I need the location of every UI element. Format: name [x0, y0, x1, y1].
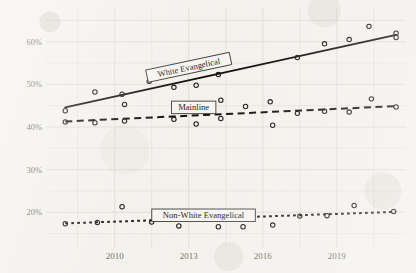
annotation-non-white-evangelical: Non-White Evangelical	[152, 209, 256, 222]
data-point	[177, 224, 181, 228]
x-axis-tick-label: 2019	[328, 251, 347, 261]
data-point	[172, 117, 176, 121]
data-point	[367, 24, 371, 28]
data-point	[270, 223, 274, 227]
series-white-evangelical	[63, 24, 398, 113]
x-axis-tick-label: 2013	[180, 251, 199, 261]
x-axis-tick-labels: 2010201320162019	[106, 251, 347, 261]
data-point	[63, 109, 67, 113]
data-point	[194, 83, 198, 87]
data-point	[93, 121, 97, 125]
data-point	[194, 122, 198, 126]
y-axis-tick-labels: 20%30%40%50%60%	[26, 37, 42, 218]
data-point	[216, 225, 220, 229]
y-axis-tick-label: 30%	[26, 165, 42, 175]
series-mainline	[63, 97, 398, 128]
scatter-chart: 20%30%40%50%60% 2010201320162019 White E…	[0, 0, 416, 273]
data-point	[219, 98, 223, 102]
data-point	[172, 85, 176, 89]
annotation-mainline: Mainline	[171, 101, 215, 114]
data-point	[369, 97, 373, 101]
series-layer	[63, 24, 398, 229]
y-axis-tick-label: 40%	[26, 122, 42, 132]
data-point	[243, 104, 247, 108]
data-point	[347, 110, 351, 114]
data-point	[295, 111, 299, 115]
data-point	[325, 213, 329, 217]
data-point	[268, 100, 272, 104]
annotation-label: Non-White Evangelical	[163, 210, 245, 220]
y-axis-tick-label: 20%	[26, 207, 42, 217]
data-point	[93, 90, 97, 94]
data-point	[352, 203, 356, 207]
data-point	[241, 225, 245, 229]
data-point	[120, 205, 124, 209]
chart-canvas: 20%30%40%50%60% 2010201320162019 White E…	[0, 0, 416, 273]
data-point	[347, 37, 351, 41]
data-point	[219, 116, 223, 120]
y-axis-tick-label: 60%	[26, 37, 42, 47]
x-axis-tick-label: 2016	[254, 251, 273, 261]
data-point	[322, 42, 326, 46]
annotation-label: Mainline	[178, 102, 209, 112]
x-axis-tick-label: 2010	[106, 251, 125, 261]
y-axis-tick-label: 50%	[26, 79, 42, 89]
